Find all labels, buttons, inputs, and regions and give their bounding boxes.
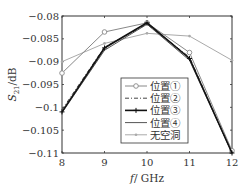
s21-line-chart: 89101112−0.08−0.085−0.09−0.095−0.1−0.105… xyxy=(0,0,243,189)
dot-marker xyxy=(61,60,64,63)
dot-marker xyxy=(231,59,234,62)
y-tick-label: −0.11 xyxy=(28,148,59,159)
legend-label: 无空洞 xyxy=(150,129,180,141)
y-tick-label: −0.1 xyxy=(35,102,59,113)
circle-marker xyxy=(102,30,107,35)
y-tick-label: −0.08 xyxy=(28,11,59,22)
x-tick-label: 11 xyxy=(183,157,196,168)
x-tick-label: 12 xyxy=(226,157,239,168)
dot-marker xyxy=(188,35,191,38)
y-tick-label: −0.085 xyxy=(22,33,59,44)
y-tick-label: −0.105 xyxy=(22,125,59,136)
legend-label: 位置① xyxy=(150,80,181,92)
x-axis-label: f/ GHz xyxy=(129,172,164,184)
circle-marker xyxy=(187,50,192,55)
x-tick-label: 8 xyxy=(59,157,65,168)
x-tick-label: 9 xyxy=(101,157,107,168)
legend: 位置①位置②位置③位置④无空洞 xyxy=(121,78,188,143)
dot-marker xyxy=(103,42,106,45)
circle-marker xyxy=(60,71,65,76)
legend-label: 位置② xyxy=(150,92,181,104)
legend-label: 位置③ xyxy=(150,104,181,116)
series-5 xyxy=(61,32,234,63)
x-tick-label: 10 xyxy=(141,157,154,168)
dot-marker xyxy=(135,134,138,137)
circle-marker xyxy=(134,84,139,89)
legend-label: 位置④ xyxy=(150,117,181,129)
y-axis-label: S21/dB xyxy=(6,67,21,101)
dot-marker xyxy=(146,32,149,35)
y-tick-label: −0.095 xyxy=(22,79,59,90)
y-tick-label: −0.09 xyxy=(28,56,59,67)
